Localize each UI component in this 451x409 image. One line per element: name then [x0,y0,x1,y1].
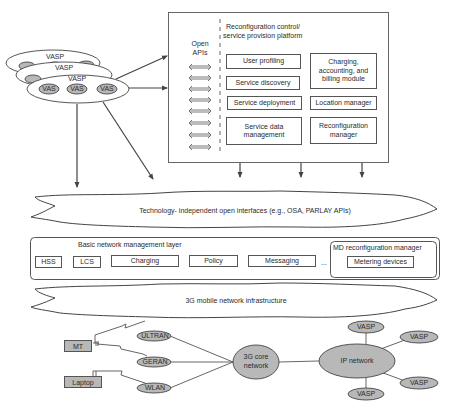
policy-box: Policy [189,255,238,267]
service-discovery-label: Service discovery [236,79,291,88]
reconfiguration-manager-line2: manager [330,131,358,140]
management-layer-title: Basic network management layer [78,241,182,250]
management-ellipsis: ... [321,259,327,268]
core-network-label-line1: 3G core [244,353,269,361]
lcs-box: LCS [73,256,101,268]
core-network-label-line2: network [244,362,269,370]
md-manager-title: MD reconfiguration manager [333,244,422,253]
vasp-label-3: VASP [68,75,86,84]
geran-label: GERAN [143,358,168,366]
service-deployment-label: Service deployment [234,99,295,108]
service-data-management-line2: management [244,131,285,140]
architecture-diagram: VASP VASP VASP VAS VAS VAS Reconfigurati… [0,0,451,409]
vasp-label-2: VASP [55,64,73,73]
reconfiguration-manager-module: Reconfiguration manager [310,117,377,144]
access-ovals [137,321,438,400]
open-apis-label-line1: Open [188,40,212,49]
ip-network-label: IP network [341,357,374,365]
laptop-device: Laptop [64,376,102,388]
open-apis-label-line2: APIs [188,49,212,58]
vasp-top-label: VASP [357,323,375,331]
wlan-label: WLAN [145,384,165,392]
vas-label-3: VAS [100,85,114,93]
mt-label: MT [73,343,83,350]
platform-title-line1: Reconfiguration control/ [226,23,300,32]
platform-down-arrows [240,163,362,177]
charging-line1: Charging, [328,58,358,67]
charging-box: Charging [111,255,179,267]
hss-box: HSS [35,256,62,268]
lcs-label: LCS [80,258,94,267]
vas-label-1: VAS [42,85,56,93]
metering-devices-box: Metering devices [347,256,414,268]
vasp-lower-right-label: VASP [410,379,428,387]
location-manager-module: Location manager [310,96,377,110]
vasp-upper-right-label: VASP [410,333,428,341]
user-profiling-label: User profiling [243,57,284,66]
charging-line3: billing module [322,75,365,84]
charging-accounting-billing-module: Charging, accounting, and billing module [310,53,377,89]
user-profiling-module: User profiling [226,54,301,69]
policy-label: Policy [204,257,223,266]
location-manager-label: Location manager [315,99,371,108]
vasp-label-1: VASP [46,53,64,62]
mt-device: MT [64,340,92,352]
charging-line2: accounting, and [319,67,368,76]
infrastructure-label: 3G mobile network infrastructure [136,297,336,306]
service-data-management-module: Service data management [226,117,302,145]
vas-label-2: VAS [70,85,84,93]
service-discovery-module: Service discovery [226,76,300,90]
platform-title-line2: service provision platform [223,32,302,41]
messaging-label: Messaging [265,257,299,266]
messaging-box: Messaging [248,255,316,267]
reconfiguration-manager-line1: Reconfiguration [319,122,368,131]
vasp-bottom-label: VASP [357,390,375,398]
charging-label: Charging [131,257,159,266]
service-deployment-module: Service deployment [227,96,302,110]
laptop-label: Laptop [72,379,93,386]
ultran-label: ULTRAN [141,332,168,340]
service-data-management-line1: Service data [245,123,284,132]
hss-label: HSS [41,258,55,267]
open-interfaces-label: Technology- independent open interfaces … [60,207,430,216]
metering-devices-label: Metering devices [354,258,407,267]
